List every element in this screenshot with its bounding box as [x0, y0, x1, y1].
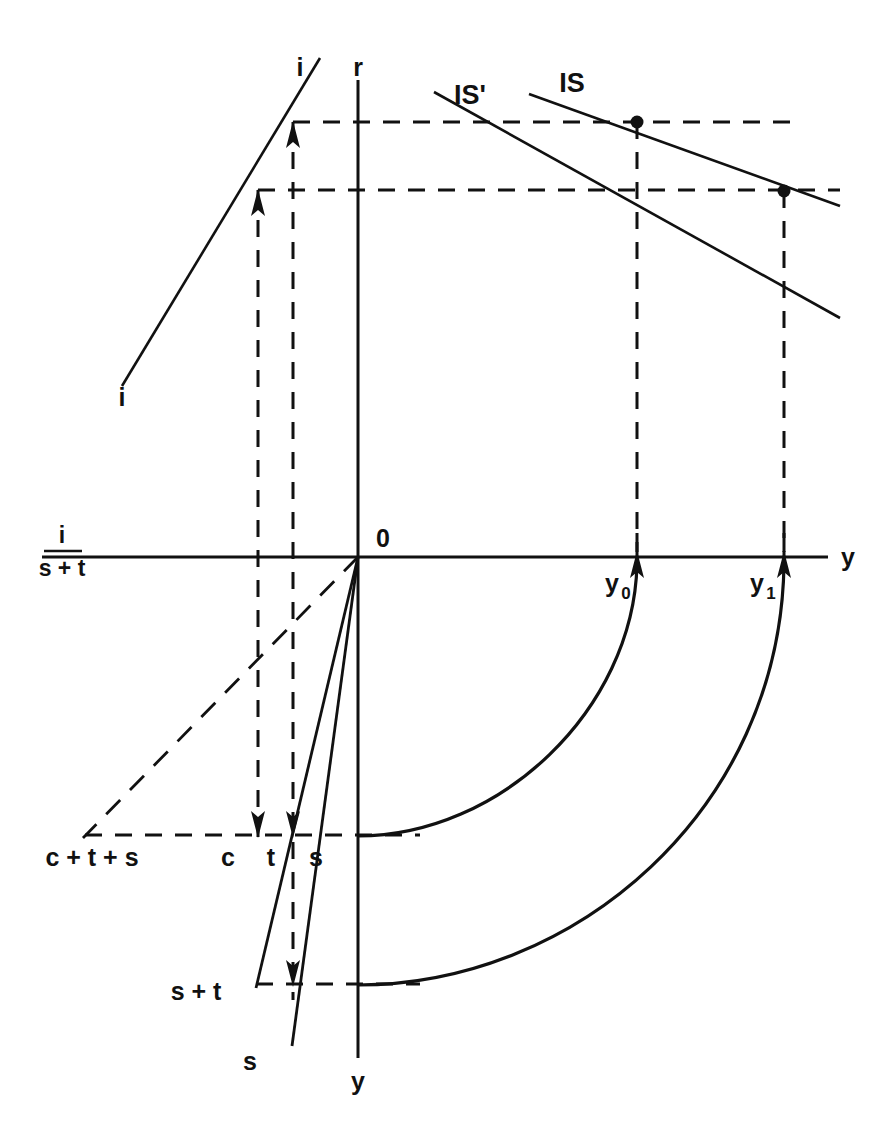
tick-marks-group — [637, 533, 784, 556]
label-origin: 0 — [376, 524, 390, 552]
arrowhead-lower-intersection — [251, 189, 265, 216]
investment-line-group — [122, 58, 320, 386]
label-i-top: i — [297, 53, 304, 81]
label-r-axis: r — [353, 53, 363, 81]
label-i-bottom: i — [119, 383, 126, 411]
label-t-tick: t — [267, 843, 276, 871]
arrowhead-upper-intersection — [286, 121, 300, 148]
labels-group: i r i IS' IS 0 i s + t y y y 0 y 1 c + t… — [39, 53, 855, 1095]
arc-to-y1 — [358, 565, 784, 985]
ray-c-plus-t-plus-s — [83, 557, 358, 838]
label-is: IS — [559, 68, 585, 98]
ray-s — [292, 557, 358, 1046]
label-y0-subscript: 0 — [621, 584, 630, 603]
label-fraction-numerator: i — [59, 522, 65, 548]
label-c-plus-t-plus-s: c + t + s — [45, 843, 138, 871]
transfer-arcs-group — [358, 551, 791, 985]
is-curve-diagram: i r i IS' IS 0 i s + t y y y 0 y 1 c + t… — [0, 0, 876, 1136]
label-y0: y — [605, 569, 619, 597]
investment-line-i — [122, 58, 320, 386]
arrowhead-t-down — [251, 811, 265, 838]
label-fraction-denominator: s + t — [39, 555, 86, 581]
arc-to-y0 — [358, 565, 637, 836]
label-c-tick: c — [221, 843, 235, 871]
label-s-plus-t-ray: s + t — [171, 977, 222, 1005]
label-y1: y — [750, 569, 764, 597]
label-is-prime: IS' — [454, 80, 486, 110]
figure-root: i r i IS' IS 0 i s + t y y y 0 y 1 c + t… — [0, 0, 876, 1136]
label-s-tick: s — [309, 843, 323, 871]
leakage-rays-group — [83, 557, 358, 1046]
label-y-axis-bottom: y — [351, 1067, 365, 1095]
axes-group — [42, 80, 828, 1058]
label-y-axis-right: y — [841, 543, 855, 571]
label-s-ray: s — [243, 1047, 257, 1075]
ray-s-plus-t — [256, 557, 358, 988]
label-y1-subscript: 1 — [766, 584, 775, 603]
